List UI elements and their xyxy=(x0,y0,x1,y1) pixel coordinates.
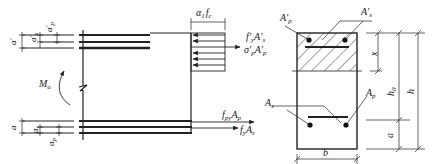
As-prime-label: A′s xyxy=(360,6,372,19)
fpy-Ap-label: fpyAp xyxy=(222,109,242,122)
bottom-leader-lines xyxy=(272,96,367,125)
bottom-reinforcement-main xyxy=(79,121,192,133)
As-label: As xyxy=(264,97,274,110)
top-dim-a-prime: a′ xyxy=(8,38,18,46)
h-dim-label: h xyxy=(405,89,416,94)
sigma-p-Ap-label: σ′pA′p xyxy=(244,44,267,57)
moment-label: Mu xyxy=(38,78,51,91)
cross-section-diagram: A′p A′s As Ap x h0 h xyxy=(264,6,425,164)
compression-zone-hatch xyxy=(297,33,357,71)
bottom-dim-ap: ap xyxy=(46,138,58,147)
compression-arrows xyxy=(193,35,225,65)
moment-arrow xyxy=(59,71,70,105)
bottom-dim-a: a xyxy=(8,125,18,130)
x-dim-label: x xyxy=(368,51,379,57)
fy-prime-As-prime-label: f′yA′s xyxy=(246,31,265,44)
beam-right-face xyxy=(150,33,191,133)
top-dim-ap-prime: a′p xyxy=(44,22,56,32)
beam-free-body-diagram: α1fc f′yA′s σ′pA′p fpyAp fyAs Mu a′ a′s … xyxy=(8,7,267,146)
h0-dim-label: h0 xyxy=(385,87,398,96)
Ap-prime-label: A′p xyxy=(279,12,292,25)
b-dim-label: b xyxy=(323,147,328,158)
Ap-label: Ap xyxy=(365,87,376,100)
a-dim-label: a xyxy=(384,133,395,138)
diagram-canvas: α1fc f′yA′s σ′pA′p fpyAp fyAs Mu a′ a′s … xyxy=(0,0,433,164)
alpha1-fc-label: α1fc xyxy=(196,7,213,20)
fy-As-label: fyAs xyxy=(240,124,255,137)
top-reinforcement-main xyxy=(79,35,150,48)
section-cut-line xyxy=(79,30,87,140)
top-dim-as-prime: a′s xyxy=(28,33,40,42)
